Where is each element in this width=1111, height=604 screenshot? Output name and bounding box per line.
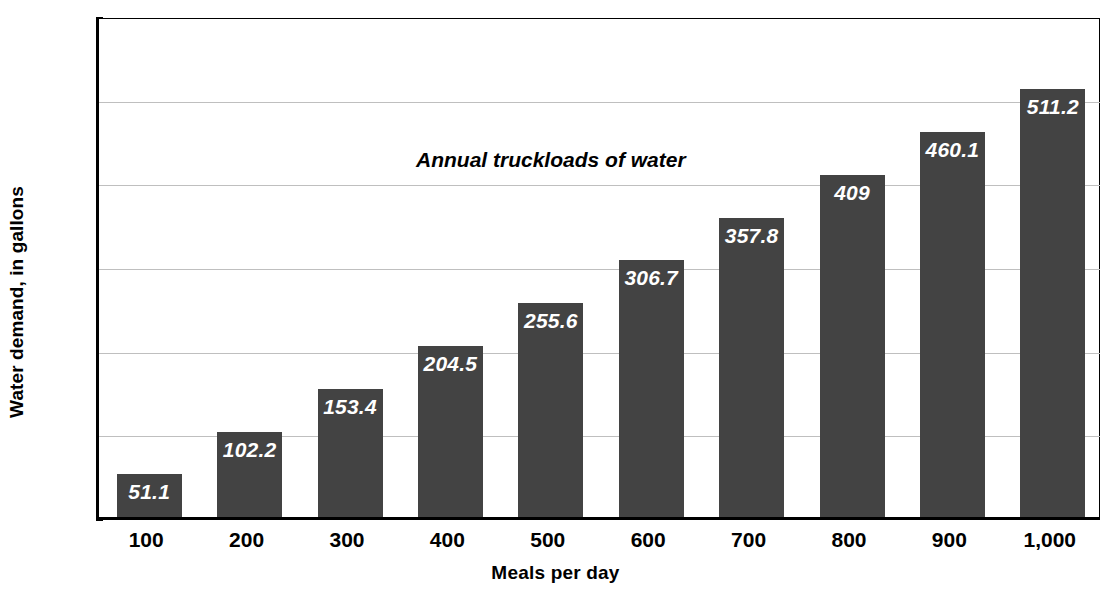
- chart-annotation: Annual truckloads of water: [416, 148, 686, 172]
- bar-value-label: 153.4: [318, 395, 383, 419]
- bar-value-label: 255.6: [518, 309, 583, 333]
- bar-value-label: 357.8: [719, 224, 784, 248]
- plot-area: 51.1102.2153.4204.5255.6306.7357.8409460…: [96, 18, 1100, 520]
- x-tick-label-900: 900: [899, 528, 999, 552]
- x-tick-label-200: 200: [196, 528, 296, 552]
- bar[interactable]: 357.8: [719, 218, 784, 517]
- bar[interactable]: 51.1: [117, 474, 182, 517]
- bar-value-label: 306.7: [619, 266, 684, 290]
- bar[interactable]: 409: [820, 175, 885, 517]
- bar-chart: Water demand, in gallons 010020030040050…: [0, 0, 1111, 604]
- bar-value-label: 460.1: [920, 138, 985, 162]
- bar-value-label: 102.2: [217, 438, 282, 462]
- bar-value-label: 51.1: [117, 480, 182, 504]
- x-tick-label-600: 600: [598, 528, 698, 552]
- x-tick-label-400: 400: [397, 528, 497, 552]
- x-tick-label-100: 100: [96, 528, 196, 552]
- bar[interactable]: 255.6: [518, 303, 583, 517]
- x-tick-label-500: 500: [498, 528, 598, 552]
- x-tick-label-1000: 1,000: [1000, 528, 1100, 552]
- y-axis-title: Water demand, in gallons: [0, 0, 34, 604]
- bar[interactable]: 306.7: [619, 260, 684, 517]
- bar[interactable]: 153.4: [318, 389, 383, 517]
- bar[interactable]: 460.1: [920, 132, 985, 517]
- bar-value-label: 204.5: [418, 352, 483, 376]
- bar[interactable]: 511.2: [1020, 89, 1085, 517]
- bar-value-label: 511.2: [1020, 95, 1085, 119]
- x-axis-title: Meals per day: [0, 562, 1111, 584]
- x-tick-label-300: 300: [297, 528, 397, 552]
- x-tick-label-800: 800: [799, 528, 899, 552]
- bar[interactable]: 102.2: [217, 432, 282, 518]
- bar[interactable]: 204.5: [418, 346, 483, 517]
- plot-inner: 51.1102.2153.4204.5255.6306.7357.8409460…: [99, 18, 1100, 517]
- x-tick-label-700: 700: [698, 528, 798, 552]
- gridline-500: [99, 102, 1100, 103]
- bar-value-label: 409: [820, 181, 885, 205]
